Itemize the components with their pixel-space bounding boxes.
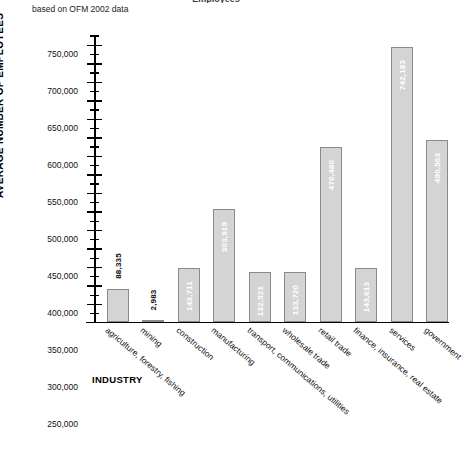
bar-value-label: 490,503 [433, 153, 442, 183]
y-tick-minor [90, 54, 99, 55]
bar-value-label: 303,919 [220, 222, 229, 252]
y-tick-major: 250,000 [87, 230, 102, 232]
bar: 143,613 [355, 268, 377, 321]
y-tick-label: 600,000 [47, 160, 78, 170]
y-tick-label: 300,000 [47, 382, 78, 392]
y-tick-minor [90, 295, 99, 296]
y-tick-label: 500,000 [47, 234, 78, 244]
y-tick-minor [90, 202, 99, 203]
bar-value-label: 2,983 [149, 289, 158, 310]
y-tick-major: 150,000 [87, 267, 102, 269]
y-tick-minor [90, 35, 99, 36]
y-tick-major: 300,000 [87, 211, 102, 213]
x-category-label: services [387, 325, 417, 353]
y-tick-label: 400,000 [47, 308, 78, 318]
bar [107, 289, 129, 322]
y-tick-major: 400,000 [87, 174, 102, 176]
bar-value-label: 133,720 [291, 285, 300, 315]
y-tick-major: 550,000 [87, 119, 102, 121]
bar-chart: Employees based on OFM 2002 data 50,0001… [0, 0, 465, 450]
y-tick-label: 550,000 [47, 197, 78, 207]
bar: 132,521 [249, 272, 271, 321]
bar-value-label: 143,613 [362, 281, 371, 311]
chart-subtitle: based on OFM 2002 data [32, 4, 128, 14]
bar: 303,919 [213, 209, 235, 322]
y-axis-line [94, 36, 96, 323]
y-tick-label: 750,000 [47, 49, 78, 59]
plot-area: 50,000100,000150,000200,000250,000300,00… [94, 36, 449, 323]
y-tick-label: 450,000 [47, 271, 78, 281]
y-tick-major: 200,000 [87, 248, 102, 250]
y-tick-minor [90, 313, 99, 314]
y-tick-minor [90, 221, 99, 222]
y-tick-label: 700,000 [47, 86, 78, 96]
y-tick-minor [90, 72, 99, 73]
bar: 490,503 [426, 140, 448, 322]
y-tick-major: 700,000 [87, 63, 102, 65]
y-axis-title: AVERAGE NUMBER OF EMPLOYEES [0, 13, 5, 198]
y-tick-major: 50,000 [87, 304, 102, 306]
y-tick-major: 500,000 [87, 137, 102, 139]
y-tick-label: 650,000 [47, 123, 78, 133]
y-tick-major: 750,000 [87, 45, 102, 47]
bar-value-label: 742,183 [397, 60, 406, 90]
y-tick-major: 100,000 [87, 285, 102, 287]
y-tick-minor [90, 109, 99, 110]
y-tick-minor [90, 128, 99, 129]
y-tick-label: 250,000 [47, 419, 78, 429]
y-tick-major: 450,000 [87, 156, 102, 158]
bar [142, 320, 164, 322]
bar: 470,480 [320, 147, 342, 321]
chart-title-fragment: Employees [176, 0, 256, 3]
y-tick-minor [90, 165, 99, 166]
x-axis-line [86, 322, 449, 324]
x-axis-title: INDUSTRY [92, 374, 143, 385]
y-tick-minor [90, 276, 99, 277]
y-tick-minor [90, 239, 99, 240]
bar: 133,720 [284, 272, 306, 322]
bar-value-label: 143,711 [184, 282, 193, 312]
bar-value-label: 132,521 [255, 285, 264, 315]
y-tick-minor [90, 91, 99, 92]
y-tick-label: 350,000 [47, 345, 78, 355]
x-category-label: government [423, 325, 464, 362]
bar: 143,711 [178, 268, 200, 321]
y-tick-major: 350,000 [87, 193, 102, 195]
y-tick-minor [90, 258, 99, 259]
bar-value-label: 88,335 [113, 253, 122, 279]
y-tick-major: 600,000 [87, 100, 102, 102]
bar: 742,183 [391, 47, 413, 322]
x-category-label: mining [139, 325, 165, 349]
y-tick-major: 650,000 [87, 82, 102, 84]
y-tick-minor [90, 146, 99, 147]
bar-value-label: 470,480 [326, 160, 335, 190]
y-tick-minor [90, 183, 99, 184]
